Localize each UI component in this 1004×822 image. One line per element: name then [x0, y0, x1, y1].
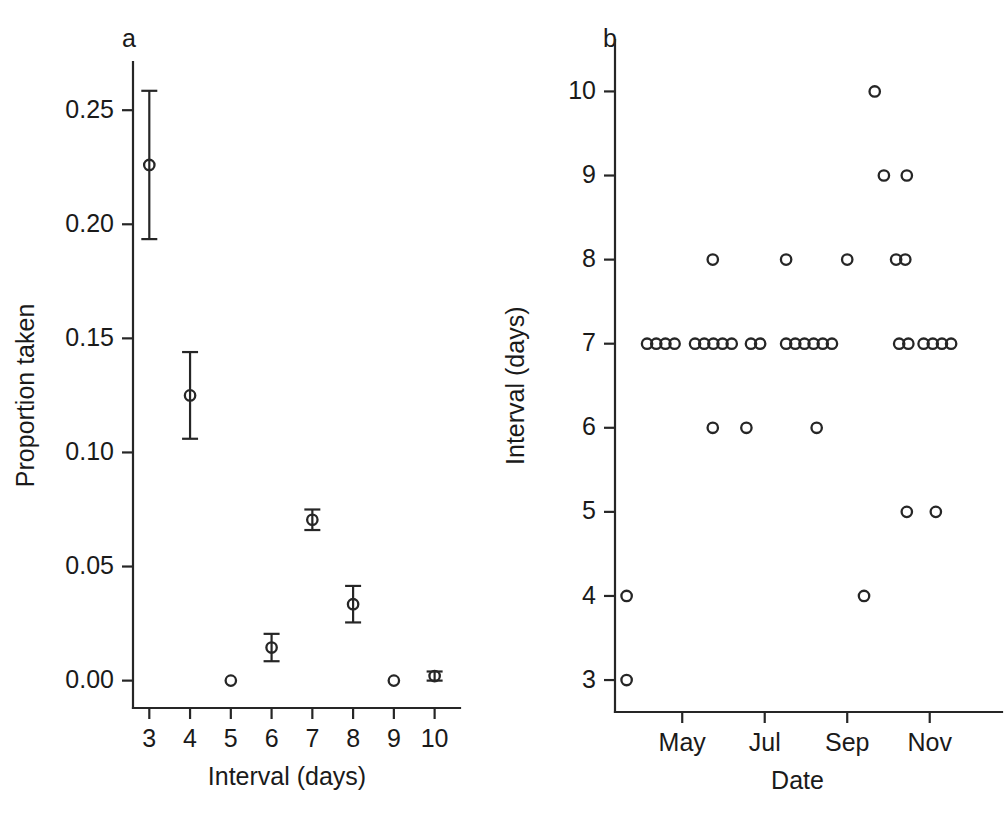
data-point-marker — [879, 170, 889, 180]
data-point-marker — [859, 591, 869, 601]
x-tick-label: Sep — [825, 728, 869, 756]
x-tick-label: Jul — [749, 728, 781, 756]
data-point-marker — [781, 254, 791, 264]
data-point-marker — [870, 86, 880, 96]
panel-a: a 0.000.050.100.150.200.25345678910Inter… — [0, 0, 502, 822]
x-tick-label: 3 — [142, 724, 156, 752]
data-point-marker — [708, 423, 718, 433]
x-tick-label: 5 — [224, 724, 238, 752]
data-point-marker — [226, 675, 236, 685]
x-tick-label: May — [659, 728, 707, 756]
y-tick-label: 7 — [582, 328, 596, 356]
data-point-marker — [931, 507, 941, 517]
y-tick-label: 0.25 — [65, 95, 114, 123]
panel-a-plot: 0.000.050.100.150.200.25345678910Interva… — [0, 0, 502, 822]
x-axis-title: Date — [771, 766, 824, 794]
panel-b: b 345678910MayJulSepNovDateInterval (day… — [502, 0, 1004, 822]
y-tick-label: 6 — [582, 412, 596, 440]
y-tick-label: 10 — [568, 76, 596, 104]
x-tick-label: 6 — [265, 724, 279, 752]
data-series — [141, 91, 442, 686]
y-tick-label: 0.05 — [65, 551, 114, 579]
data-point-marker — [621, 591, 631, 601]
data-point-marker — [741, 423, 751, 433]
x-tick-label: 9 — [387, 724, 401, 752]
data-point-marker — [389, 675, 399, 685]
figure-root: a 0.000.050.100.150.200.25345678910Inter… — [0, 0, 1004, 822]
x-tick-label: 7 — [305, 724, 319, 752]
y-tick-label: 8 — [582, 244, 596, 272]
data-point-marker — [842, 254, 852, 264]
data-series — [621, 86, 956, 685]
x-tick-label: Nov — [907, 728, 952, 756]
y-tick-label: 9 — [582, 160, 596, 188]
y-axis-title: Proportion taken — [11, 304, 39, 487]
y-tick-label: 0.00 — [65, 665, 114, 693]
data-point-marker — [708, 254, 718, 264]
panel-b-plot: 345678910MayJulSepNovDateInterval (days) — [502, 0, 1004, 822]
y-tick-label: 0.20 — [65, 209, 114, 237]
x-tick-label: 10 — [421, 724, 449, 752]
x-tick-label: 4 — [183, 724, 197, 752]
x-axis-title: Interval (days) — [208, 762, 366, 790]
data-point-marker — [621, 675, 631, 685]
data-point-marker — [902, 507, 912, 517]
y-tick-label: 4 — [582, 581, 596, 609]
y-tick-label: 3 — [582, 665, 596, 693]
y-tick-label: 0.10 — [65, 437, 114, 465]
data-point-marker — [902, 170, 912, 180]
y-axis-title: Interval (days) — [501, 307, 529, 465]
data-point-marker — [811, 423, 821, 433]
x-tick-label: 8 — [346, 724, 360, 752]
y-tick-label: 5 — [582, 496, 596, 524]
y-tick-label: 0.15 — [65, 323, 114, 351]
